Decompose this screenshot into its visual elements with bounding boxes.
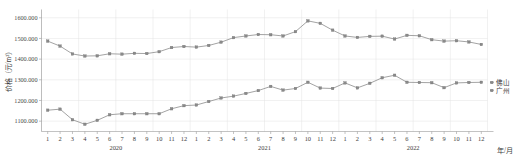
x-tick-label: 1	[195, 135, 198, 142]
series-marker	[455, 39, 458, 42]
series-marker	[183, 104, 186, 107]
x-tick-label: 11	[466, 135, 472, 142]
series-marker	[418, 34, 421, 37]
x-tick-label: 12	[329, 135, 335, 142]
x-tick-label: 8	[133, 135, 136, 142]
series-marker	[220, 41, 223, 44]
legend-marker	[491, 89, 494, 92]
series-marker	[282, 35, 285, 38]
series-marker	[319, 22, 322, 25]
x-tick-label: 2	[58, 135, 61, 142]
x-axis-year-label: 2021	[258, 144, 271, 151]
legend-label: 佛山	[496, 78, 510, 87]
series-marker	[170, 46, 173, 49]
series-marker	[121, 112, 124, 115]
x-tick-label: 11	[317, 135, 323, 142]
series-marker	[307, 20, 310, 23]
series-marker	[170, 107, 173, 110]
x-tick-label: 4	[83, 135, 87, 142]
series-marker	[257, 89, 260, 92]
axes	[42, 10, 494, 132]
x-tick-label: 1	[46, 135, 49, 142]
y-tick-label: 1600.000	[14, 14, 37, 21]
x-tick-label: 10	[156, 135, 162, 142]
series-marker	[381, 76, 384, 79]
series-marker	[393, 74, 396, 77]
series-marker	[108, 52, 111, 55]
series-marker	[46, 109, 49, 112]
y-tick-label: 1400.000	[14, 55, 37, 62]
x-tick-label: 10	[453, 135, 459, 142]
x-tick-label: 5	[244, 135, 247, 142]
gridlines	[42, 10, 488, 132]
legend-label: 广州	[496, 86, 510, 95]
x-tick-label: 5	[393, 135, 396, 142]
y-axis-ticks: 1100.0001200.0001300.0001400.0001500.000…	[14, 14, 41, 124]
x-tick-label: 3	[71, 135, 74, 142]
x-tick-label: 3	[368, 135, 371, 142]
series-marker	[84, 123, 87, 126]
series-marker	[71, 118, 74, 121]
series-marker	[183, 45, 186, 48]
x-axis-year-labels: 202020212022	[109, 144, 419, 151]
series-marker	[443, 86, 446, 89]
series-marker	[96, 55, 99, 58]
series-marker	[84, 55, 87, 58]
series-marker	[46, 40, 49, 43]
x-axis-year-label: 2022	[407, 144, 420, 151]
x-tick-label: 6	[108, 135, 111, 142]
series-marker	[294, 87, 297, 90]
series-marker	[108, 113, 111, 116]
series-marker	[146, 112, 149, 115]
series-marker	[418, 81, 421, 84]
series-marker	[393, 38, 396, 41]
y-tick-label: 1200.000	[14, 97, 37, 104]
series-marker	[468, 41, 471, 44]
x-axis-ticks: 1234567891011121234567891011121234567891…	[46, 132, 484, 143]
y-tick-label: 1100.000	[15, 117, 38, 124]
series-marker	[443, 40, 446, 43]
line-chart: 1100.0001200.0001300.0001400.0001500.000…	[0, 0, 531, 163]
x-tick-label: 1	[343, 135, 346, 142]
series-marker	[195, 104, 198, 107]
series-marker	[406, 34, 409, 37]
x-tick-label: 8	[430, 135, 433, 142]
series-marker	[269, 85, 272, 88]
series-marker	[331, 87, 334, 90]
series-marker	[294, 30, 297, 33]
series-marker	[207, 100, 210, 103]
series-marker	[480, 43, 483, 46]
series-marker	[232, 95, 235, 98]
x-tick-label: 6	[405, 135, 408, 142]
series-marker	[331, 29, 334, 32]
x-tick-label: 9	[145, 135, 148, 142]
series-marker	[195, 46, 198, 49]
series-marker	[468, 81, 471, 84]
x-tick-label: 4	[381, 135, 385, 142]
x-axis-title: 年/月	[497, 146, 513, 155]
series-marker	[232, 36, 235, 39]
series-marker	[207, 44, 210, 47]
legend-marker	[491, 81, 494, 84]
x-axis-year-label: 2020	[109, 144, 122, 151]
series-marker	[158, 112, 161, 115]
series-marker	[133, 112, 136, 115]
series-marker	[344, 35, 347, 38]
series-marker	[146, 52, 149, 55]
x-tick-label: 7	[269, 135, 273, 142]
series-marker	[158, 50, 161, 53]
series-marker	[71, 53, 74, 56]
series-marker	[220, 97, 223, 100]
x-tick-label: 8	[281, 135, 284, 142]
x-tick-label: 7	[418, 135, 422, 142]
series-marker	[381, 35, 384, 38]
series-marker	[59, 45, 62, 48]
x-tick-label: 9	[294, 135, 297, 142]
series-marker	[356, 87, 359, 90]
series-marker	[480, 81, 483, 84]
series-marker	[59, 108, 62, 111]
series-marker	[245, 92, 248, 95]
x-tick-label: 12	[181, 135, 187, 142]
series-marker	[455, 82, 458, 85]
chart-container: 1100.0001200.0001300.0001400.0001500.000…	[0, 0, 531, 163]
